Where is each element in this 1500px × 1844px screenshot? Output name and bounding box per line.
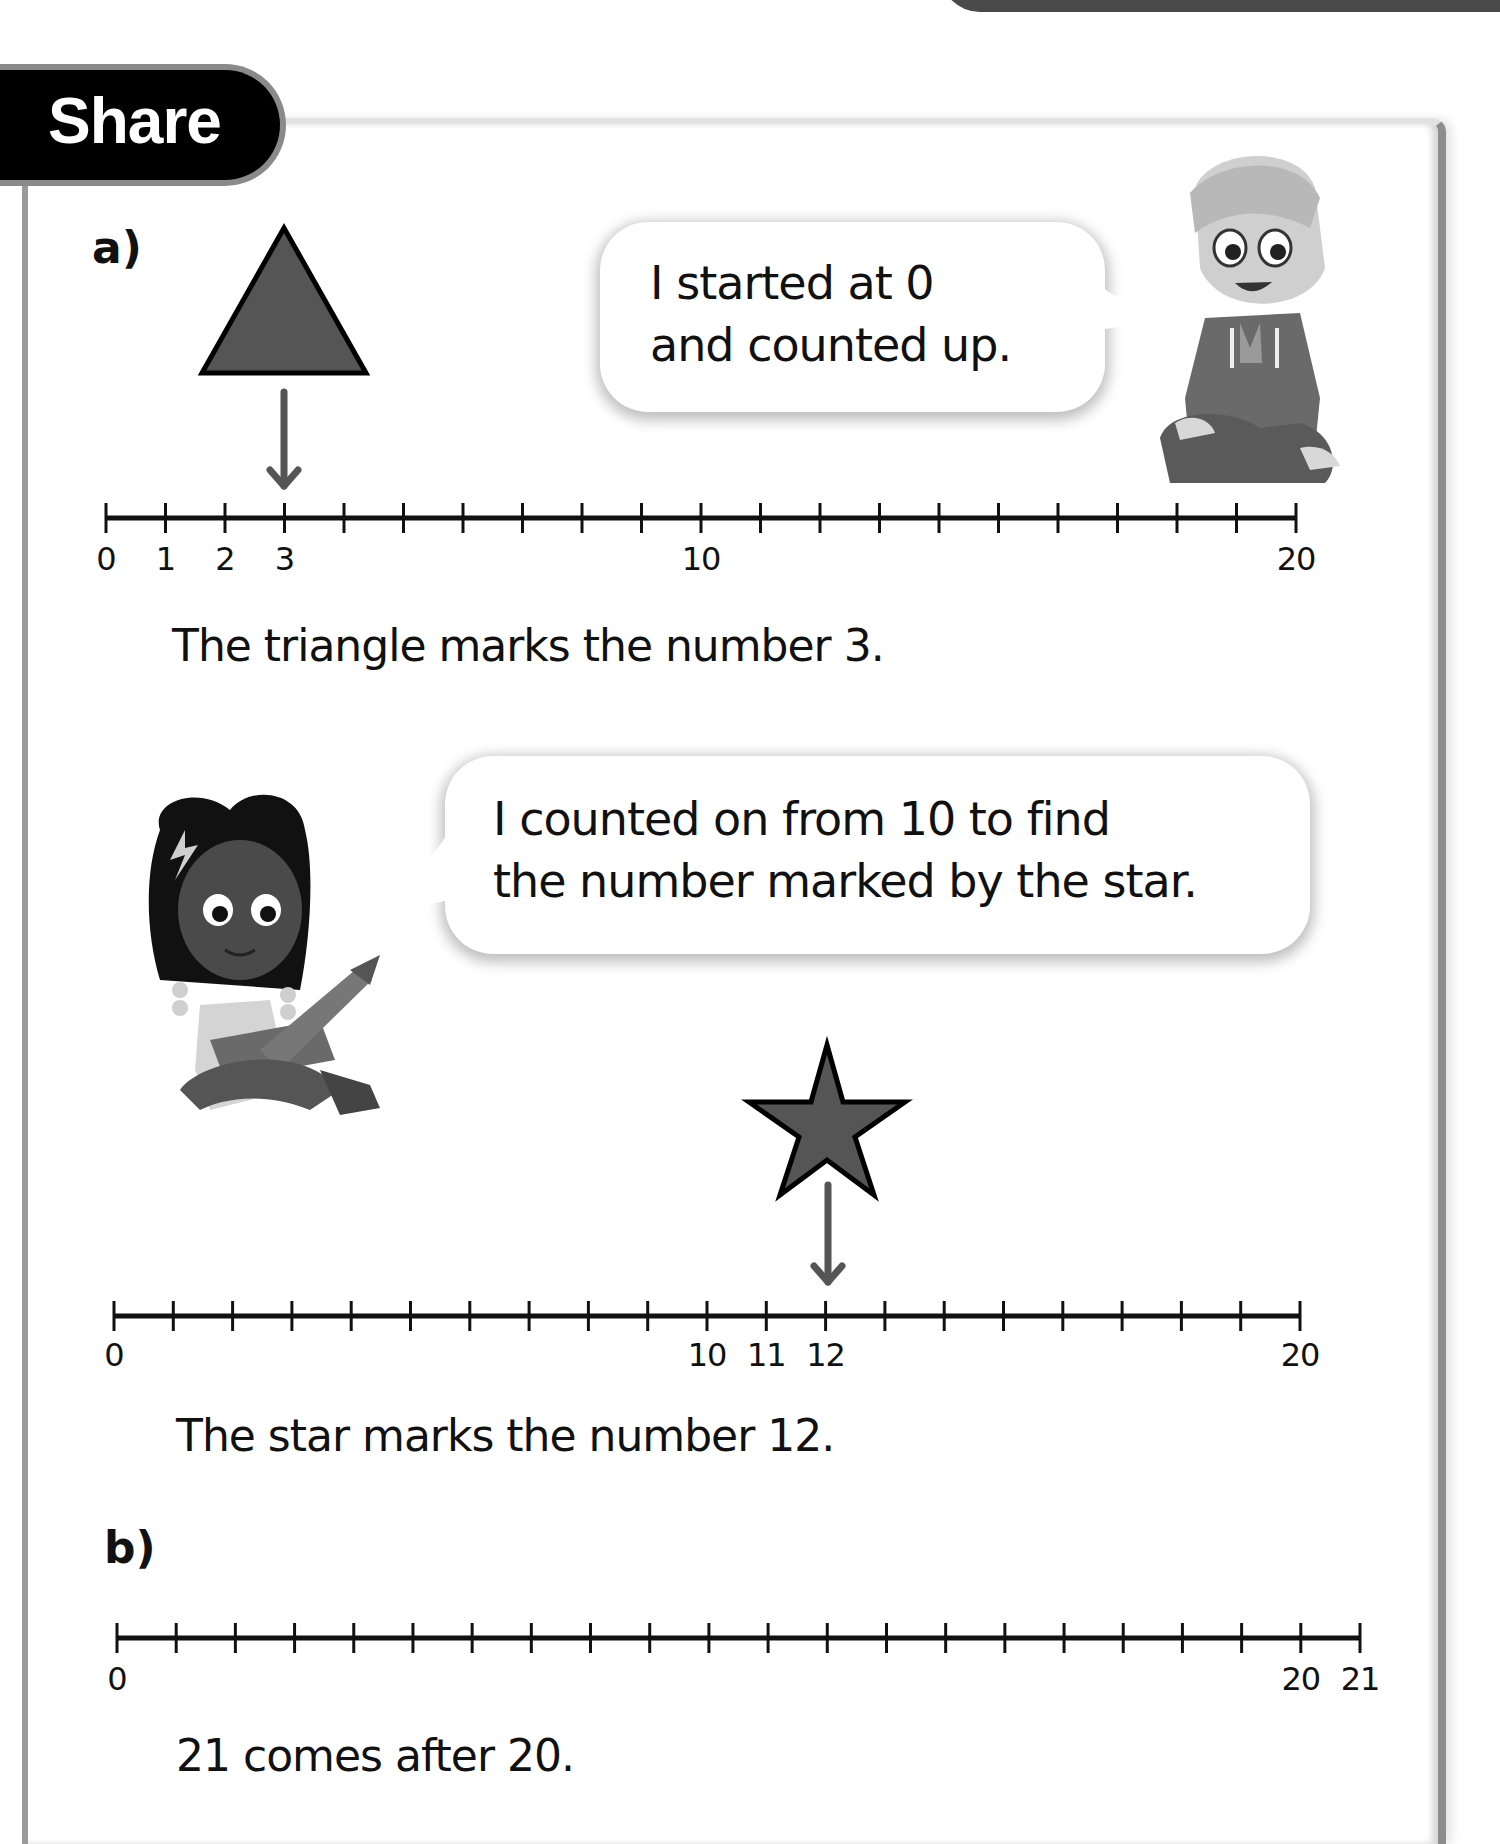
tick-label: 21 — [1341, 1660, 1380, 1698]
tick-label: 20 — [1281, 1660, 1320, 1698]
caption-part-b: 21 comes after 20. — [176, 1730, 574, 1781]
tick-label: 0 — [107, 1660, 126, 1698]
